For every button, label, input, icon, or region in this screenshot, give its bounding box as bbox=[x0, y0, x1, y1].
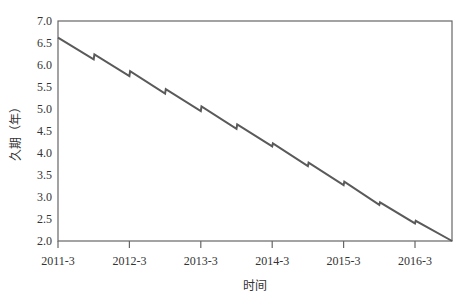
y-tick-label: 7.0 bbox=[37, 14, 52, 28]
x-tick-label: 2014-3 bbox=[255, 254, 289, 268]
y-tick-label: 5.5 bbox=[37, 80, 52, 94]
y-tick-label: 6.5 bbox=[37, 36, 52, 50]
y-tick-label: 2.5 bbox=[37, 212, 52, 226]
x-tick-label: 2015-3 bbox=[327, 254, 361, 268]
plot-border bbox=[58, 21, 452, 241]
y-axis: 2.02.53.03.54.04.55.05.56.06.57.0 bbox=[37, 14, 52, 248]
duration-series-line bbox=[58, 38, 452, 241]
y-tick-label: 2.0 bbox=[37, 234, 52, 248]
x-tick-label: 2013-3 bbox=[184, 254, 218, 268]
x-tick-label: 2012-3 bbox=[112, 254, 146, 268]
x-tick-label: 2011-3 bbox=[41, 254, 75, 268]
x-axis-title: 时间 bbox=[243, 279, 267, 293]
y-tick-label: 3.0 bbox=[37, 190, 52, 204]
y-tick-label: 4.0 bbox=[37, 146, 52, 160]
x-tick-label: 2016-3 bbox=[398, 254, 432, 268]
x-axis: 2011-32012-32013-32014-32015-32016-3 bbox=[41, 241, 432, 268]
y-tick-label: 6.0 bbox=[37, 58, 52, 72]
y-tick-label: 3.5 bbox=[37, 168, 52, 182]
y-tick-label: 4.5 bbox=[37, 124, 52, 138]
y-tick-label: 5.0 bbox=[37, 102, 52, 116]
plot-frame bbox=[58, 21, 452, 241]
y-axis-title: 久期（年） bbox=[9, 101, 23, 161]
duration-line-chart: 2.02.53.03.54.04.55.05.56.06.57.0 2011-3… bbox=[0, 0, 466, 301]
